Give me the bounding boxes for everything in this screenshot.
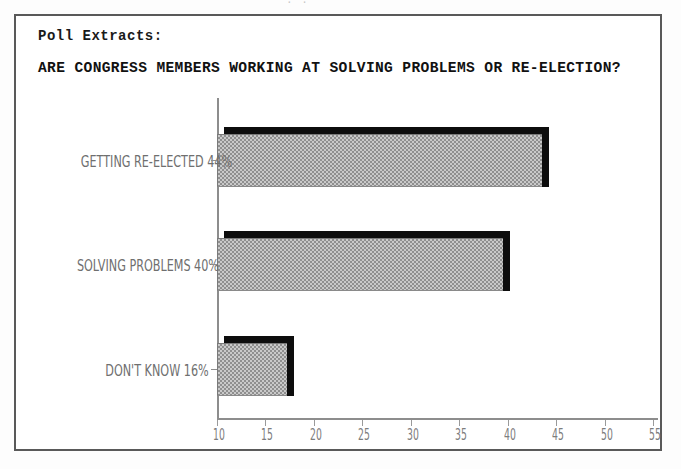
x-axis-tick-label: 10	[209, 426, 228, 444]
bar-label-getting-re-elected: GETTING RE-ELECTED 44%	[16, 152, 209, 171]
x-axis-tick-label: 40	[500, 426, 519, 444]
x-axis-tick-label-text: 55	[649, 426, 661, 444]
bar-label-leader	[211, 160, 217, 161]
x-axis-tick-label: 50	[597, 426, 616, 444]
x-axis-tick-label-text: 40	[504, 426, 516, 444]
screenshot-root: · · Poll Extracts: ARE CONGRESS MEMBERS …	[0, 0, 681, 469]
poll-panel: Poll Extracts: ARE CONGRESS MEMBERS WORK…	[14, 14, 662, 451]
bar-side-face	[542, 127, 549, 187]
bar-chart: 10 15 20 25 30 35 40 45 50 55 GETTING RE…	[16, 90, 660, 451]
bar-dont-know	[217, 343, 287, 396]
x-axis-line	[217, 418, 658, 420]
panel-headline: ARE CONGRESS MEMBERS WORKING AT SOLVING …	[38, 60, 621, 76]
x-axis-tick-label-text: 15	[261, 426, 273, 444]
scan-artifact-top-text: · ·	[286, 0, 666, 4]
bar-group-dont-know	[217, 336, 294, 396]
bar-label-solving-problems: SOLVING PROBLEMS 40%	[16, 256, 209, 275]
bar-top-face	[224, 127, 549, 134]
x-axis-tick-label: 15	[257, 426, 276, 444]
bar-side-face	[287, 336, 294, 396]
x-axis-tick-label-text: 35	[455, 426, 467, 444]
bar-top-face	[224, 336, 294, 343]
panel-kicker: Poll Extracts:	[38, 28, 163, 44]
bar-solving-problems	[217, 238, 503, 291]
bar-side-face	[503, 231, 510, 291]
x-axis-tick-label: 20	[306, 426, 325, 444]
bar-group-solving-problems	[217, 231, 510, 291]
x-axis-tick-label: 25	[354, 426, 373, 444]
x-axis-tick-label-text: 50	[601, 426, 613, 444]
x-axis-tick-label: 55	[645, 426, 664, 444]
x-axis-tick-label-text: 10	[213, 426, 225, 444]
bar-label-dont-know: DON'T KNOW 16%	[16, 361, 209, 380]
bar-label-leader	[211, 264, 217, 265]
x-axis-tick-label-text: 45	[552, 426, 564, 444]
x-axis-tick-label: 45	[548, 426, 567, 444]
x-axis-tick-label-text: 20	[310, 426, 322, 444]
bar-label-text: GETTING RE-ELECTED 44%	[81, 152, 232, 171]
bar-top-face	[224, 231, 510, 238]
x-axis-tick-label: 35	[451, 426, 470, 444]
bar-getting-re-elected	[217, 134, 542, 187]
bar-group-getting-re-elected	[217, 127, 549, 187]
bar-label-leader	[211, 369, 217, 370]
x-axis-tick-label: 30	[403, 426, 422, 444]
bar-label-text: DON'T KNOW 16%	[106, 361, 209, 380]
x-axis-tick-label-text: 30	[407, 426, 419, 444]
x-axis-tick-label-text: 25	[358, 426, 370, 444]
bar-label-text: SOLVING PROBLEMS 40%	[77, 256, 219, 275]
